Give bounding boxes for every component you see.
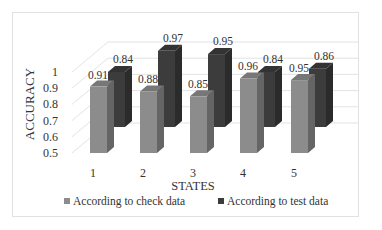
y-axis-ticks: 0.50.60.70.80.91 [43, 65, 58, 160]
legend-item-check[interactable]: According to check data [64, 195, 185, 208]
data-label-test: 0.86 [314, 50, 334, 62]
y-tick-label: 0.9 [43, 81, 58, 95]
data-label-check: 0.96 [238, 60, 258, 72]
data-label-check: 0.88 [138, 73, 158, 85]
y-axis-title: ACCURACY [22, 67, 37, 140]
legend-swatch-test [218, 198, 224, 204]
y-tick-label: 0.8 [43, 97, 58, 111]
legend-label-test: According to test data [227, 195, 328, 208]
y-tick-label: 0.5 [43, 146, 58, 160]
legend-swatch-check [64, 198, 70, 204]
data-label-test: 0.97 [163, 32, 183, 44]
x-tick-label: 1 [90, 166, 96, 180]
data-label-check: 0.95 [289, 62, 309, 74]
bar-check-5 [291, 74, 315, 153]
y-tick-label: 0.6 [43, 130, 58, 144]
bar-check-4 [240, 72, 264, 153]
data-label-check: 0.91 [88, 69, 108, 81]
x-axis-title: STATES [171, 179, 214, 193]
data-label-test: 0.84 [263, 53, 283, 65]
legend-item-test[interactable]: According to test data [218, 195, 328, 208]
x-axis-ticks: 12345 [90, 166, 297, 180]
bar-check-3 [190, 90, 214, 153]
y-tick-label: 0.7 [43, 114, 58, 128]
bar-check-2 [140, 85, 164, 153]
legend-label-check: According to check data [73, 195, 185, 208]
data-label-test: 0.95 [213, 35, 233, 47]
bar-check-1 [90, 81, 114, 153]
x-tick-label: 3 [190, 166, 196, 180]
y-tick-label: 1 [52, 65, 58, 79]
accuracy-3d-bar-chart: 0.50.60.70.80.91 0.910.840.880.970.850.9… [0, 0, 382, 230]
data-label-test: 0.84 [113, 53, 133, 65]
x-tick-label: 5 [291, 166, 297, 180]
x-tick-label: 4 [240, 166, 246, 180]
data-label-check: 0.85 [188, 78, 208, 90]
x-tick-label: 2 [140, 166, 146, 180]
legend: According to check data According to tes… [64, 195, 328, 208]
